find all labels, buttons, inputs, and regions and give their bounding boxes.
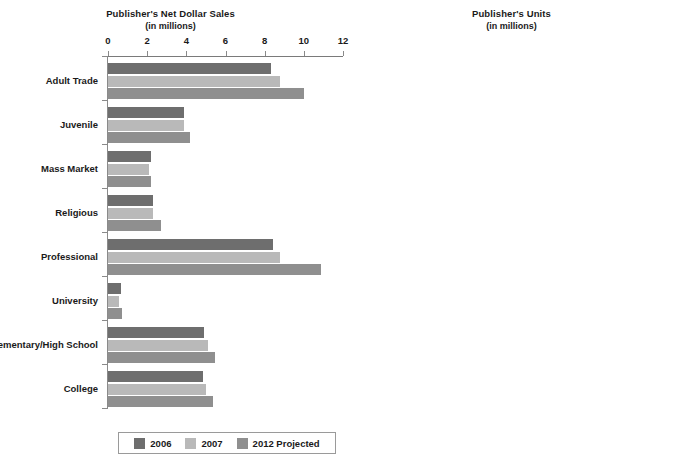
x-tick-label: 2 bbox=[145, 35, 150, 46]
bar bbox=[108, 76, 280, 87]
x-tick-label: 6 bbox=[223, 35, 228, 46]
legend-swatch-icon bbox=[134, 438, 145, 449]
legend-label: 2012 Projected bbox=[253, 438, 320, 449]
bar bbox=[108, 264, 321, 275]
x-tick-label: 8 bbox=[262, 35, 267, 46]
bar bbox=[108, 239, 273, 250]
legend-left: 200620072012 Projected bbox=[118, 432, 336, 454]
y-tick bbox=[102, 320, 108, 321]
y-tick bbox=[102, 232, 108, 233]
y-tick bbox=[102, 100, 108, 101]
bar bbox=[108, 296, 119, 307]
bar bbox=[108, 371, 203, 382]
legend-item: 2006 bbox=[134, 438, 171, 449]
bar bbox=[108, 176, 151, 187]
category-label-professional: Professional bbox=[41, 251, 98, 262]
category-label-college: College bbox=[64, 383, 98, 394]
x-tick-label: 0 bbox=[105, 35, 110, 46]
chart-page: Publisher's Net Dollar Sales (in million… bbox=[0, 0, 682, 475]
bar bbox=[108, 107, 184, 118]
bar bbox=[108, 283, 121, 294]
y-tick bbox=[102, 276, 108, 277]
bar bbox=[108, 132, 190, 143]
panel-units: Publisher's Units (in millions) 02004006… bbox=[341, 0, 682, 475]
bar bbox=[108, 252, 280, 263]
plot-area-left: 024681012Adult TradeJuvenileMass MarketR… bbox=[108, 56, 343, 411]
legend-label: 2007 bbox=[201, 438, 222, 449]
bar bbox=[108, 164, 149, 175]
category-label-adult-trade: Adult Trade bbox=[46, 75, 98, 86]
bar bbox=[108, 308, 122, 319]
bar bbox=[108, 208, 153, 219]
legend-swatch-icon bbox=[237, 438, 248, 449]
bar bbox=[108, 396, 213, 407]
y-tick bbox=[102, 364, 108, 365]
panel-net-dollar-sales: Publisher's Net Dollar Sales (in million… bbox=[0, 0, 341, 475]
y-tick bbox=[102, 144, 108, 145]
bar bbox=[108, 120, 184, 131]
x-tick bbox=[186, 51, 187, 56]
bar bbox=[108, 340, 208, 351]
bar bbox=[108, 63, 271, 74]
legend-item: 2007 bbox=[185, 438, 222, 449]
chart-subtitle-right: (in millions) bbox=[341, 20, 682, 32]
x-tick-label: 4 bbox=[184, 35, 189, 46]
bar bbox=[108, 195, 153, 206]
x-tick bbox=[108, 51, 109, 56]
chart-title-left: Publisher's Net Dollar Sales bbox=[0, 8, 341, 20]
x-axis-line-left bbox=[108, 56, 343, 57]
y-tick bbox=[102, 408, 108, 409]
bar bbox=[108, 352, 215, 363]
x-tick bbox=[304, 51, 305, 56]
x-tick-label: 10 bbox=[299, 35, 310, 46]
x-tick bbox=[226, 51, 227, 56]
legend-item: 2012 Projected bbox=[237, 438, 320, 449]
category-label-mass-market: Mass Market bbox=[41, 163, 98, 174]
chart-title-right: Publisher's Units bbox=[341, 8, 682, 20]
x-tick bbox=[147, 51, 148, 56]
y-tick bbox=[102, 56, 108, 57]
bar bbox=[108, 384, 206, 395]
y-tick bbox=[102, 188, 108, 189]
x-tick bbox=[265, 51, 266, 56]
category-label-religious: Religious bbox=[55, 207, 98, 218]
legend-swatch-icon bbox=[185, 438, 196, 449]
bar bbox=[108, 151, 151, 162]
category-label-elementary-high-school: Elementary/High School bbox=[0, 339, 98, 350]
bar bbox=[108, 327, 204, 338]
chart-subtitle-left: (in millions) bbox=[0, 20, 341, 32]
bar bbox=[108, 88, 304, 99]
category-label-university: University bbox=[52, 295, 98, 306]
category-label-juvenile: Juvenile bbox=[60, 119, 98, 130]
legend-label: 2006 bbox=[150, 438, 171, 449]
bar bbox=[108, 220, 161, 231]
